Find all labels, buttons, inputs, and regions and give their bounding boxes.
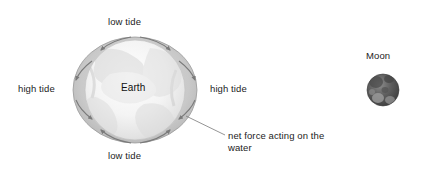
label-high-tide-left: high tide: [18, 83, 55, 95]
moon-sphere: [367, 74, 399, 106]
label-earth: Earth: [121, 82, 145, 94]
label-net-force: net force acting on the water: [228, 130, 328, 154]
net-force-leader-line: [186, 116, 225, 135]
label-high-tide-right: high tide: [210, 83, 247, 95]
label-low-tide-bottom: low tide: [108, 150, 141, 162]
tides-diagram: low tide low tide high tide high tide Ea…: [0, 0, 432, 180]
label-moon: Moon: [366, 50, 390, 62]
label-low-tide-top: low tide: [108, 16, 141, 28]
